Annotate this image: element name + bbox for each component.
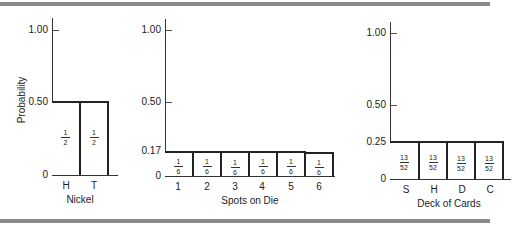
bar-fraction: 16 (306, 159, 332, 176)
bar-spades: 1352 (390, 141, 420, 179)
x-tick-label: C (480, 185, 500, 195)
x-tick-label: H (56, 181, 76, 191)
x-tick-label: S (396, 185, 416, 195)
bar-3: 16 (220, 151, 250, 176)
y-tick-label: 0.25 (356, 137, 386, 147)
bar-h: 12 (52, 101, 81, 175)
x-axis-title: Spots on Die (210, 196, 290, 206)
y-tick-label: 1.00 (131, 25, 161, 35)
bar-5: 16 (276, 151, 306, 176)
x-axis-title: Nickel (55, 195, 105, 205)
x-axis (390, 179, 511, 180)
x-tick-label: 4 (252, 182, 272, 192)
bar-fraction: 1352 (448, 155, 474, 172)
bar-fraction: 16 (165, 158, 192, 175)
bar-fraction: 1352 (420, 154, 446, 171)
y-tick (166, 30, 172, 31)
x-tick-label: 2 (197, 182, 217, 192)
bar-6: 16 (304, 152, 334, 176)
bottom-rule (0, 219, 490, 223)
x-tick-label: 1 (168, 182, 188, 192)
y-tick-label: 0.50 (18, 97, 48, 107)
bar-2: 16 (192, 151, 222, 176)
x-tick-label: T (84, 181, 104, 191)
y-tick-label: 0.50 (356, 100, 386, 110)
bar-fraction: 12 (81, 129, 107, 146)
y-tick (391, 105, 397, 106)
bar-fraction: 12 (52, 129, 79, 146)
x-tick-label: 3 (225, 182, 245, 192)
y-tick (53, 30, 59, 31)
x-axis-title: Deck of Cards (409, 199, 489, 209)
y-tick-label: 0.17 (131, 146, 161, 156)
y-tick-label: 0 (131, 171, 161, 181)
x-axis (52, 175, 118, 176)
y-tick-label: 0 (356, 174, 386, 184)
top-rule (0, 2, 490, 6)
bar-fraction: 16 (222, 159, 248, 176)
x-tick-label: 5 (281, 182, 301, 192)
y-tick (391, 33, 397, 34)
y-tick-label: 0 (18, 170, 48, 180)
bar-diamonds: 1352 (446, 141, 476, 179)
bar-fraction: 1352 (390, 154, 418, 171)
bar-hearts: 1352 (418, 141, 448, 179)
bar-1: 16 (165, 151, 194, 176)
x-tick-label: D (452, 185, 472, 195)
bar-clubs: 1352 (474, 141, 504, 179)
bar-fraction: 16 (194, 158, 220, 175)
bar-fraction: 16 (278, 158, 304, 175)
y-tick-label: 1.00 (356, 28, 386, 38)
y-tick-label: 0.50 (131, 97, 161, 107)
x-tick-label: 6 (309, 182, 329, 192)
bar-4: 16 (248, 151, 278, 176)
bar-t: 12 (79, 101, 109, 175)
x-tick-label: H (424, 185, 444, 195)
y-tick (166, 102, 172, 103)
y-tick-label: 1.00 (18, 25, 48, 35)
bar-fraction: 16 (250, 158, 276, 175)
x-axis (165, 176, 335, 177)
bar-fraction: 1352 (476, 155, 502, 172)
